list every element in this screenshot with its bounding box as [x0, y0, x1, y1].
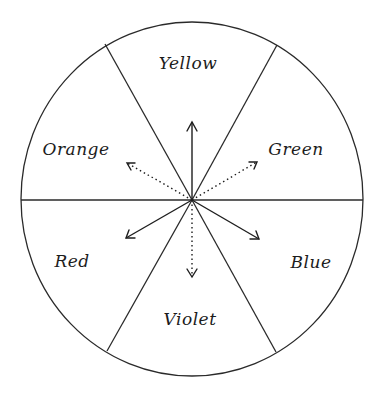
label-violet: Violet: [164, 309, 217, 329]
label-orange: Orange: [42, 139, 109, 159]
label-green: Green: [268, 139, 323, 159]
label-blue: Blue: [290, 252, 332, 272]
color-wheel-diagram: Yellow Green Blue Violet Red Orange: [0, 0, 380, 394]
label-red: Red: [53, 251, 89, 271]
label-yellow: Yellow: [159, 53, 217, 73]
